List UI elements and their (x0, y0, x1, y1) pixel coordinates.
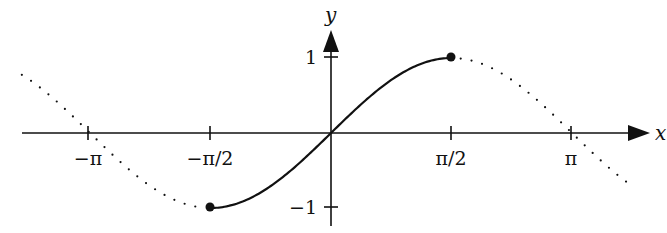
x-tick-label-half-pi: π/2 (436, 147, 467, 169)
x-axis-label: x (655, 121, 666, 145)
dotted-curve-left (22, 75, 201, 208)
y-axis-arrow-icon (323, 30, 339, 52)
endpoint-dot-left (206, 203, 215, 212)
x-tick-label-neg-pi: −π (74, 147, 102, 169)
y-axis-label: y (324, 3, 337, 27)
dotted-curve-right (461, 59, 634, 188)
y-tick-label-neg-1: −1 (289, 196, 317, 218)
x-tick-label-neg-half-pi: −π/2 (187, 147, 234, 169)
sine-graph: y x −π −π/2 π/2 π 1 −1 (0, 0, 667, 233)
endpoint-dot-right (447, 53, 456, 62)
x-tick-label-pi: π (565, 147, 578, 169)
x-axis-arrow-icon (628, 125, 650, 141)
y-tick-label-1: 1 (305, 46, 317, 68)
